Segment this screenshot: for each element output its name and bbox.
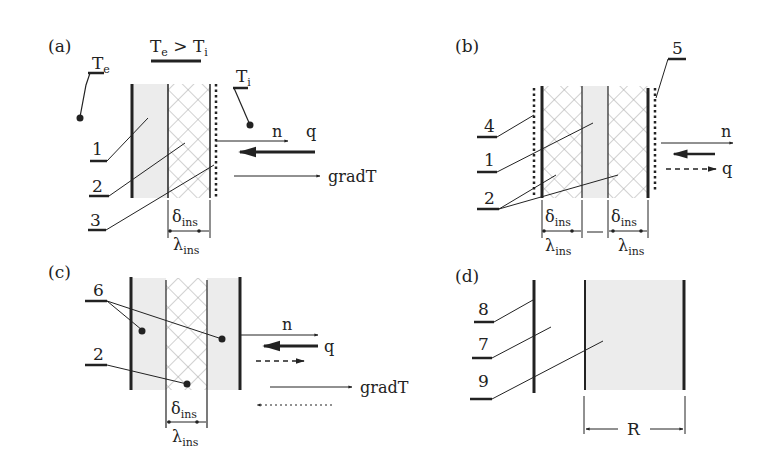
vector-n-label: n — [282, 315, 292, 334]
panel-a: (a) Te > Ti Te Ti 1 2 3 n q — [48, 36, 377, 257]
panel-b-label: (b) — [455, 36, 479, 56]
lambda-ins-label: λins — [173, 235, 200, 257]
vector-n-label: n — [272, 122, 282, 141]
callout-2: 2 — [93, 344, 104, 364]
vector-q-label: q — [324, 337, 334, 356]
gradT-label: gradT — [328, 167, 377, 186]
panel-c-label: (c) — [48, 262, 71, 282]
callout-5: 5 — [672, 38, 683, 58]
vector-q-label: q — [306, 122, 316, 141]
gradT-label: gradT — [360, 378, 409, 397]
lambda-ins-label-1: λins — [545, 236, 572, 258]
panel-d-label: (d) — [455, 266, 479, 286]
callout-8: 8 — [478, 299, 489, 319]
panel-a-label: (a) — [48, 36, 71, 56]
delta-ins-label: δins — [171, 399, 197, 421]
panel-d: (d) 8 7 9 R — [455, 266, 685, 439]
vector-n-label: n — [721, 122, 731, 141]
ti-label: Ti — [236, 66, 251, 89]
callout-6: 6 — [93, 280, 104, 300]
figure-canvas: (a) Te > Ti Te Ti 1 2 3 n q — [0, 0, 771, 468]
callout-7: 7 — [478, 334, 489, 354]
condition-label: Te > Ti — [150, 36, 208, 59]
panel-c: (c) 6 2 n q gradT δins λins — [48, 262, 409, 449]
callout-1: 1 — [92, 139, 103, 159]
callout-2: 2 — [484, 188, 495, 208]
delta-ins-label-2: δins — [611, 207, 637, 229]
lambda-ins-label: λins — [172, 427, 199, 449]
lambda-ins-label-2: λins — [618, 236, 645, 258]
delta-ins-label-1: δins — [545, 207, 571, 229]
callout-3: 3 — [90, 210, 101, 230]
callout-2: 2 — [92, 176, 103, 196]
callout-9: 9 — [478, 371, 489, 391]
panel-b: (b) 5 4 1 2 n q δins — [455, 36, 733, 258]
vector-q-label: q — [722, 159, 732, 178]
callout-4: 4 — [484, 116, 495, 136]
dimension-r-label: R — [627, 419, 641, 439]
callout-1: 1 — [484, 150, 495, 170]
delta-ins-label: δins — [172, 207, 198, 229]
